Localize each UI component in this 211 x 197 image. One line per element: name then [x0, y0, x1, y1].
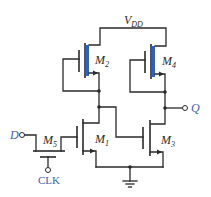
m4-label: M4 [161, 54, 176, 70]
clk-label: CLK [38, 174, 60, 186]
q-label: Q [191, 101, 200, 115]
output-terminal-q: Q [165, 101, 200, 115]
circuit-schematic: VDD M2 M4 Q M1 [0, 0, 211, 197]
m1-source-arrow-icon [90, 149, 95, 154]
m4-source-arrow-icon [159, 72, 164, 77]
m2-channel [86, 45, 89, 76]
transistor-m5: D CLK M5 [9, 128, 77, 186]
node-dot [163, 90, 167, 94]
transistor-m1: M1 [77, 119, 109, 167]
m5-label: M5 [42, 133, 57, 149]
vdd-rail: VDD [89, 13, 166, 46]
m4-channel [152, 46, 155, 77]
transistor-m4: M4 [130, 44, 176, 92]
vdd-label: VDD [124, 13, 143, 29]
m2-source-arrow-icon [93, 71, 98, 76]
m1-label: M1 [94, 132, 109, 148]
transistor-m3: M3 [143, 120, 175, 167]
d-label: D [9, 128, 19, 142]
ground [96, 165, 163, 187]
m3-label: M3 [160, 133, 175, 149]
m3-source-arrow-icon [157, 150, 162, 155]
node-dot [97, 89, 101, 93]
clk-terminal-icon [46, 168, 51, 173]
m2-label: M2 [94, 53, 109, 69]
output-terminal-icon [183, 106, 188, 111]
input-terminal-icon [20, 133, 25, 138]
transistor-m2: M2 [63, 43, 109, 91]
